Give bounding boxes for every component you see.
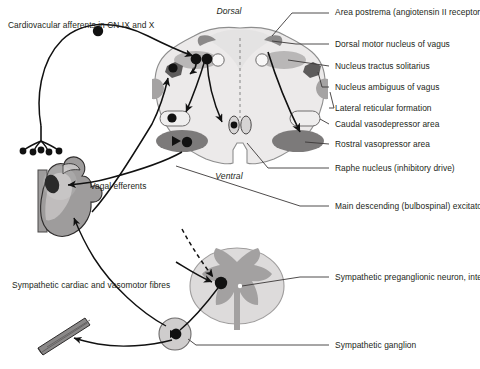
- caudal-vasodepressor-neuron: [167, 113, 176, 122]
- label-raphe-nucleus: Raphe nucleus (inhibitory drive): [335, 163, 480, 174]
- nts-neuron-b: [202, 54, 213, 65]
- label-rostral-vasopressor-area-text: Rostral vasopressor area: [335, 139, 430, 149]
- label-sympathetic-cardiac-vasomotor: Sympathetic cardiac and vasomotor fibres: [12, 280, 88, 291]
- postganglionic-fibre-pathway: [74, 338, 172, 346]
- leader-sympathetic-ganglion: [188, 339, 329, 345]
- dorsal-label: Dorsal: [198, 6, 260, 17]
- label-nucleus-tractus-solitarius-text: Nucleus tractus solitarius: [335, 61, 430, 71]
- heart-illustration: [38, 157, 102, 236]
- label-sympathetic-preganglionic-neuron-text: Sympathetic preganglionic neuron, interm…: [335, 272, 480, 282]
- label-vagal-efferents-text: Vagal efferents: [90, 181, 146, 191]
- medulla-oblongata-cross-section: [152, 27, 328, 163]
- leader-area-postrema: [272, 13, 329, 36]
- leader-caudal-vasodepressor: [320, 119, 329, 124]
- sympathetic-cardiac-fibre-pathway: [74, 218, 166, 326]
- label-main-descending-excitatory-drive: Main descending (bulbospinal) excitatory…: [335, 201, 480, 212]
- diagram-artwork: [0, 0, 480, 369]
- label-dorsal-motor-nucleus-of-vagus-text: Dorsal motor nucleus of vagus: [335, 39, 450, 49]
- label-nucleus-tractus-solitarius: Nucleus tractus solitarius: [335, 61, 480, 72]
- label-sympathetic-cardiac-vasomotor-text: Sympathetic cardiac and vasomotor fibres: [12, 280, 170, 290]
- label-cardiovascular-afferents: Cardiovacular afferents in CN IX and X: [8, 20, 104, 31]
- baroreceptor-nerve-ending: [20, 126, 63, 155]
- label-sympathetic-ganglion-text: Sympathetic ganglion: [335, 340, 416, 350]
- label-caudal-vasodepressor-area-text: Caudal vasodepressor area: [335, 119, 439, 129]
- sympathetic-preganglionic-neuron-body: [215, 277, 227, 289]
- ventral-label: Ventral: [198, 171, 260, 182]
- rostral-vasopressor-neuron: [182, 137, 192, 147]
- label-main-descending-excitatory-drive-text: Main descending (bulbospinal) excitatory…: [335, 201, 480, 211]
- label-rostral-vasopressor-area: Rostral vasopressor area: [335, 139, 480, 150]
- leader-lateral-reticular-formation: [329, 92, 334, 108]
- label-caudal-vasodepressor-area: Caudal vasodepressor area: [335, 119, 480, 130]
- label-lateral-reticular-formation: Lateral reticular formation: [335, 103, 480, 114]
- nucleus-ambiguus-neuron: [168, 63, 177, 72]
- label-sympathetic-ganglion: Sympathetic ganglion: [335, 340, 480, 351]
- sympathetic-ganglion-body: [159, 318, 191, 350]
- caudal-vasodepressor-area-right: [290, 111, 320, 126]
- label-area-postrema: Area postrema (angiotensin II receptors): [335, 7, 480, 18]
- peripheral-nerve-bundle: [38, 318, 90, 355]
- label-sympathetic-preganglionic-neuron: Sympathetic preganglionic neuron, interm…: [335, 272, 480, 283]
- label-nucleus-ambiguus-of-vagus: Nucleus ambiguus of vagus: [335, 82, 480, 93]
- rostral-vasopressor-area-right: [272, 130, 324, 152]
- spinal-cord-cross-section: [176, 229, 284, 330]
- label-nucleus-ambiguus-of-vagus-text: Nucleus ambiguus of vagus: [335, 82, 439, 92]
- label-dorsal-motor-nucleus-of-vagus: Dorsal motor nucleus of vagus: [335, 39, 480, 50]
- label-area-postrema-text: Area postrema (angiotensin II receptors): [335, 7, 480, 17]
- label-vagal-efferents: Vagal efferents: [90, 181, 150, 192]
- label-raphe-nucleus-text: Raphe nucleus (inhibitory drive): [335, 163, 455, 173]
- label-cardiovascular-afferents-text: Cardiovacular afferents in CN IX and X: [8, 20, 154, 30]
- figure-canvas: Dorsal Ventral Cardiovacular afferents i…: [0, 0, 480, 369]
- label-lateral-reticular-formation-text: Lateral reticular formation: [335, 103, 432, 113]
